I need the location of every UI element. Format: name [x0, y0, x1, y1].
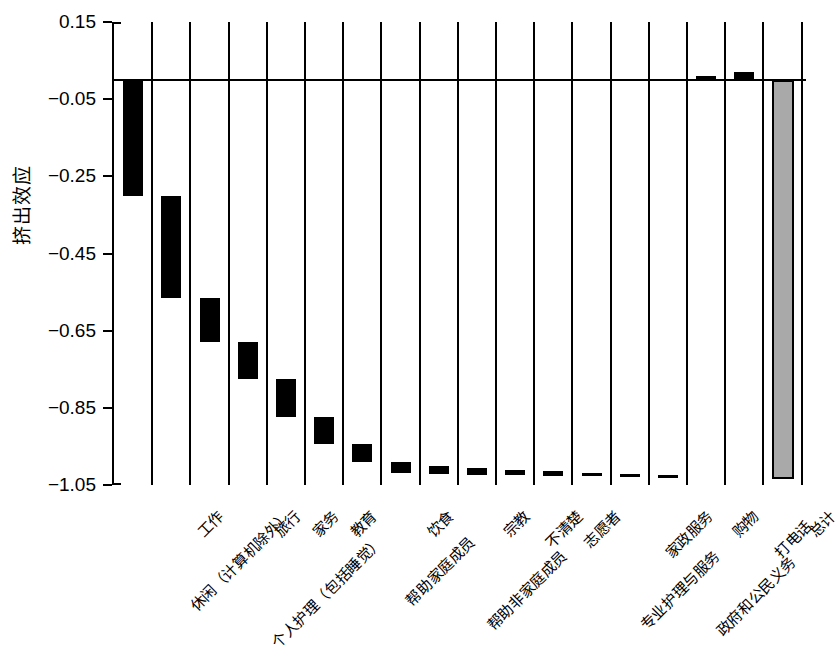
x-axis-category-label: 家务	[307, 505, 343, 541]
category-gridline	[610, 22, 612, 485]
y-axis-tick-label: −0.25	[22, 165, 96, 187]
x-axis-category-label: 专业护理与服务	[634, 545, 723, 634]
category-gridline	[724, 22, 726, 485]
waterfall-bar	[696, 76, 716, 80]
waterfall-bar	[238, 342, 258, 379]
x-axis-category-label: 饮食	[421, 505, 457, 541]
x-axis-category-label: 购物	[727, 505, 763, 541]
category-gridline	[457, 22, 459, 485]
waterfall-bar	[505, 470, 525, 475]
y-axis-tick-mark	[103, 484, 112, 486]
x-axis-category-label: 帮助家庭成员	[401, 531, 479, 609]
waterfall-bar	[620, 474, 640, 477]
y-axis-tick-mark	[103, 253, 112, 255]
waterfall-bar	[582, 473, 602, 477]
category-gridline	[571, 22, 573, 485]
y-axis-tick-label: −0.05	[22, 88, 96, 110]
waterfall-bar	[276, 379, 296, 418]
category-gridline	[342, 22, 344, 485]
waterfall-bar	[391, 462, 411, 474]
y-axis-tick-label: −1.05	[22, 474, 96, 496]
total-bar	[772, 80, 794, 479]
y-axis-bottom-serif	[112, 483, 121, 485]
y-axis-tick-labels: 0.15−0.05−0.25−0.45−0.65−0.85−1.05	[18, 0, 96, 665]
waterfall-bar	[429, 466, 449, 474]
y-axis-tick-label: 0.15	[22, 11, 96, 33]
x-axis-category-label: 政府和公民义务	[711, 551, 800, 640]
waterfall-bar	[543, 471, 563, 475]
category-gridline	[266, 22, 268, 485]
y-axis-tick-mark	[103, 21, 112, 23]
y-axis-tick-label: −0.85	[22, 397, 96, 419]
waterfall-bar	[200, 298, 220, 342]
category-gridline	[189, 22, 191, 485]
category-gridline	[228, 22, 230, 485]
category-gridline	[533, 22, 535, 485]
category-gridline	[380, 22, 382, 485]
waterfall-bar	[314, 417, 334, 444]
x-axis-category-label: 志愿者	[578, 505, 625, 552]
y-axis-tick-mark	[103, 407, 112, 409]
category-gridline	[762, 22, 764, 485]
y-axis-tick-mark	[103, 175, 112, 177]
x-axis-category-label: 不清楚	[540, 505, 587, 552]
y-axis-spine	[112, 22, 114, 485]
x-axis-category-label: 帮助非家庭成员	[481, 545, 570, 634]
y-axis-tick-mark	[103, 330, 112, 332]
waterfall-bar	[352, 444, 372, 461]
plot-area	[112, 18, 800, 490]
category-gridline	[419, 22, 421, 485]
y-axis-tick-label: −0.45	[22, 243, 96, 265]
waterfall-bar	[123, 80, 143, 196]
waterfall-bar	[734, 72, 754, 80]
category-gridline	[686, 22, 688, 485]
category-gridline	[801, 22, 803, 485]
category-gridline	[648, 22, 650, 485]
waterfall-bar	[161, 196, 181, 298]
x-axis-category-label: 宗教	[498, 505, 534, 541]
x-axis-category-label: 工作	[192, 505, 228, 541]
y-axis-top-serif	[112, 22, 121, 24]
y-axis-tick-label: −0.65	[22, 320, 96, 342]
waterfall-bar	[658, 475, 678, 478]
x-axis-category-label: 个人护理（包括睡觉）	[265, 531, 386, 652]
category-gridline	[304, 22, 306, 485]
waterfall-bar	[467, 468, 487, 475]
category-gridline	[495, 22, 497, 485]
category-gridline	[151, 22, 153, 485]
y-axis-tick-mark	[103, 98, 112, 100]
